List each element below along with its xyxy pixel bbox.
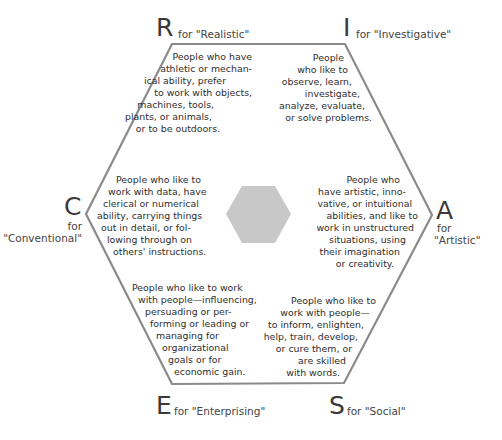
- description-line: or to be outdoors.: [136, 123, 220, 135]
- type-letter-i: I: [343, 15, 350, 40]
- description-line: observe, learn,: [282, 76, 352, 88]
- description-line: have artistic, inno-: [318, 186, 406, 198]
- description-line: or cure them, or: [276, 343, 352, 355]
- type-label-social: for "Social": [347, 405, 406, 417]
- description-line: People who like to: [116, 174, 201, 186]
- type-label-realistic: for "Realistic": [178, 28, 249, 40]
- description-line: managing for: [156, 330, 219, 342]
- description-line: or creativity.: [336, 258, 394, 270]
- description-line: who like to: [297, 64, 348, 76]
- description-line: clerical or numerical: [103, 198, 199, 210]
- description-line: to inform, enlighten,: [268, 319, 364, 331]
- center-hexagon-shape: [226, 186, 291, 243]
- type-letter-c: C: [64, 194, 81, 219]
- description-line: help, train, develop,: [264, 331, 358, 343]
- description-line: ical ability, prefer: [144, 75, 226, 87]
- description-line: situations, using: [329, 234, 406, 246]
- type-letter-e: E: [156, 393, 172, 418]
- description-line: with people—influencing,: [138, 294, 257, 306]
- riasec-hexagon-diagram: R for "Realistic" I for "Investigative" …: [0, 0, 502, 440]
- description-line: athletic or mechan-: [160, 63, 252, 75]
- description-line: vative, or intuitional: [318, 198, 413, 210]
- type-letter-r: R: [156, 15, 173, 40]
- type-label-enterprising: for "Enterprising": [174, 405, 265, 417]
- description-line: work in unstructured: [316, 222, 414, 234]
- description-line: investigate,: [305, 88, 360, 100]
- description-line: People who like to: [291, 295, 376, 307]
- description-line: work with data, have: [108, 186, 207, 198]
- description-line: out in detail, or fol-: [101, 222, 191, 234]
- description-line: abilities, and like to: [327, 210, 418, 222]
- type-label-conventional: "Conventional": [3, 232, 82, 244]
- description-line: forming or leading or: [150, 318, 249, 330]
- description-line: to work with objects,: [154, 87, 252, 99]
- description-line: ability, carrying things: [97, 210, 202, 222]
- description-line: machines, tools,: [137, 99, 214, 111]
- description-line: their imagination: [319, 246, 400, 258]
- description-line: People who have: [173, 51, 252, 63]
- type-label-conventional-for: for: [68, 220, 82, 232]
- type-letter-s: S: [329, 393, 345, 418]
- description-line: lowing through on: [107, 234, 192, 246]
- description-line: persuading or per-: [145, 306, 232, 318]
- type-letter-a: A: [436, 198, 453, 223]
- description-line: with words.: [286, 367, 340, 379]
- description-line: others' instructions.: [113, 246, 206, 258]
- description-line: organizational: [162, 342, 229, 354]
- description-line: People who: [347, 174, 400, 186]
- description-line: plants, or animals,: [125, 111, 212, 123]
- description-line: goals or for: [168, 354, 221, 366]
- description-line: are skilled: [298, 355, 346, 367]
- description-line: People who like to work: [132, 282, 243, 294]
- type-label-artistic: "Artistic": [434, 234, 480, 246]
- description-line: economic gain.: [174, 366, 245, 378]
- type-label-artistic-for: for: [437, 222, 451, 234]
- description-line: or solve problems.: [285, 112, 372, 124]
- description-line: analyze, evaluate,: [279, 100, 365, 112]
- description-line: work with people—: [280, 307, 370, 319]
- description-line: People: [313, 52, 344, 64]
- type-label-investigative: for "Investigative": [356, 28, 451, 40]
